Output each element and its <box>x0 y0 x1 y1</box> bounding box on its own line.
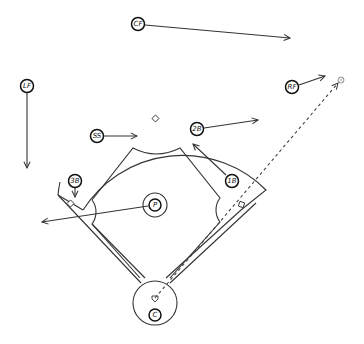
baseball-field-diagram: CF LF RF SS 2B 1B 3B P C <box>0 0 364 344</box>
home-plate <box>152 296 158 302</box>
rf-movement-arrow <box>299 76 325 85</box>
first-base-line-outer <box>170 203 256 283</box>
position-rf-label: RF <box>288 83 298 91</box>
first-base <box>238 201 244 207</box>
position-1b-label: 1B <box>227 177 236 185</box>
infield-grass-border <box>92 148 220 278</box>
third-base-line-outer <box>58 195 141 283</box>
position-c[interactable]: C <box>149 309 161 321</box>
first-base-line-inner <box>166 210 241 278</box>
infield-arc-left-edge <box>58 182 60 195</box>
ball-icon <box>338 77 344 83</box>
position-ss[interactable]: SS <box>91 130 104 143</box>
second-base <box>152 115 159 122</box>
position-p[interactable]: P <box>149 199 161 211</box>
third-base-line-inner <box>92 224 145 278</box>
position-2b[interactable]: 2B <box>191 123 204 136</box>
position-cf-label: CF <box>134 20 144 28</box>
position-3b[interactable]: 3B <box>69 175 82 188</box>
position-3b-label: 3B <box>70 177 79 185</box>
position-2b-label: 2B <box>192 125 201 133</box>
position-rf[interactable]: RF <box>286 81 299 94</box>
position-lf[interactable]: LF <box>21 80 34 93</box>
position-lf-label: LF <box>23 82 32 90</box>
cf-movement-arrow <box>145 25 290 38</box>
position-ss-label: SS <box>93 132 102 140</box>
batted-ball-path <box>155 83 338 298</box>
2b-movement-arrow <box>204 120 258 128</box>
position-c-label: C <box>153 311 158 319</box>
position-cf[interactable]: CF <box>132 18 145 31</box>
position-1b[interactable]: 1B <box>226 175 239 188</box>
